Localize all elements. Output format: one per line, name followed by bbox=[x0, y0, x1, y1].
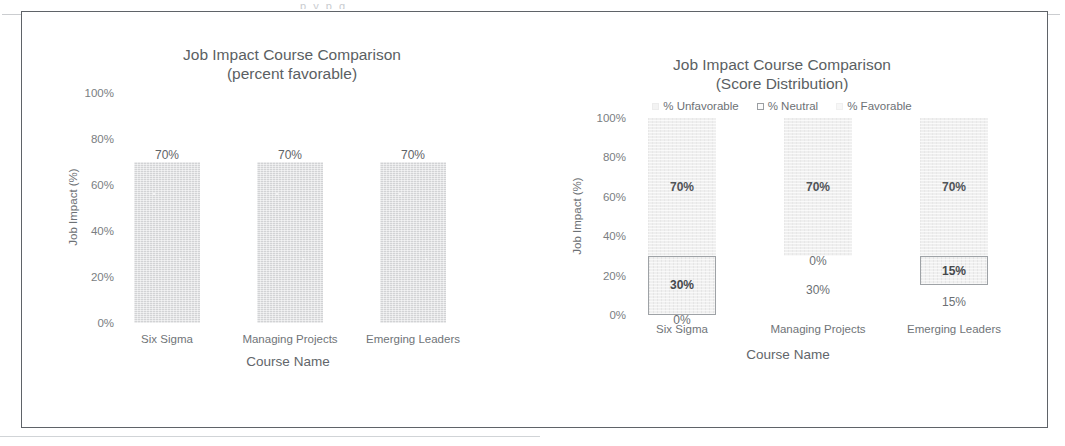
plot-area-score-distribution: Job Impact (%) 100% 80% 60% 40% 20% 0% 7… bbox=[542, 118, 1022, 315]
x-tick-label-emerging-leaders: Emerging Leaders bbox=[366, 333, 460, 345]
bars-container-left: 70% 70% 70% Six Sigma Managing Projects bbox=[124, 93, 516, 323]
legend-item-unfavorable[interactable]: % Unfavorable bbox=[652, 100, 738, 112]
bar-rect[interactable] bbox=[257, 162, 323, 323]
x-axis-title-right: Course Name bbox=[594, 347, 982, 362]
chart-title-line-1: Job Impact Course Comparison bbox=[673, 56, 891, 73]
chart-title-score-distribution: Job Impact Course Comparison (Score Dist… bbox=[542, 55, 1022, 93]
segment-value-label: 30% bbox=[670, 278, 694, 292]
x-tick-label-managing-projects: Managing Projects bbox=[770, 323, 865, 335]
segment-favorable[interactable]: 70% bbox=[920, 118, 988, 256]
bar-value-label: 70% bbox=[380, 148, 446, 162]
segment-unfavorable-label: 30% bbox=[784, 283, 852, 297]
y-axis-ticks-left: 100% 80% 60% 40% 20% 0% bbox=[72, 93, 114, 323]
segment-unfavorable-label: 15% bbox=[920, 295, 988, 309]
segment-value-label: 15% bbox=[942, 264, 966, 278]
slide-frame: Job Impact Course Comparison (percent fa… bbox=[21, 11, 1048, 428]
legend-swatch-icon bbox=[652, 103, 659, 110]
scan-artifact-bottom-rule bbox=[0, 436, 540, 437]
chart-legend-score-distribution: % Unfavorable % Neutral % Favorable bbox=[542, 100, 1022, 112]
y-tick-label: 20% bbox=[72, 271, 114, 283]
x-tick-label-managing-projects: Managing Projects bbox=[242, 333, 337, 345]
segment-value-label: 70% bbox=[670, 180, 694, 194]
legend-item-label: % Unfavorable bbox=[663, 100, 738, 112]
stacked-bar-managing-projects[interactable]: 70% 0% 30% bbox=[784, 118, 852, 315]
legend-swatch-icon bbox=[757, 103, 764, 110]
y-tick-label: 100% bbox=[584, 112, 626, 124]
legend-item-label: % Favorable bbox=[847, 100, 912, 112]
legend-item-label: % Neutral bbox=[768, 100, 819, 112]
y-axis-title-right: Job Impact (%) bbox=[571, 171, 583, 261]
legend-item-favorable[interactable]: % Favorable bbox=[836, 100, 912, 112]
y-tick-label: 0% bbox=[584, 309, 626, 321]
segment-favorable[interactable]: 70% bbox=[784, 118, 852, 256]
bars-container-right: 70% 30% 0% 70% 0% 30% bbox=[634, 118, 1022, 315]
stacked-bar-emerging-leaders[interactable]: 70% 15% 15% bbox=[920, 118, 988, 315]
segment-neutral-label: 0% bbox=[784, 254, 852, 268]
chart-title-line-1: Job Impact Course Comparison bbox=[183, 46, 401, 63]
chart-title-percent-favorable: Job Impact Course Comparison (percent fa… bbox=[62, 45, 522, 83]
x-tick-label-six-sigma: Six Sigma bbox=[656, 323, 708, 335]
y-tick-label: 60% bbox=[72, 179, 114, 191]
stacked-bar-six-sigma[interactable]: 70% 30% 0% bbox=[648, 118, 716, 315]
chart-score-distribution: Job Impact Course Comparison (Score Dist… bbox=[542, 55, 1022, 385]
segment-value-label: 70% bbox=[806, 180, 830, 194]
bar-rect[interactable] bbox=[380, 162, 446, 323]
bar-column-emerging-leaders[interactable]: 70% bbox=[380, 93, 446, 323]
y-tick-label: 40% bbox=[72, 225, 114, 237]
y-tick-label: 80% bbox=[584, 151, 626, 163]
chart-title-line-2: (percent favorable) bbox=[62, 64, 522, 83]
y-tick-label: 60% bbox=[584, 191, 626, 203]
bar-value-label: 70% bbox=[134, 148, 200, 162]
y-tick-label: 20% bbox=[584, 270, 626, 282]
segment-neutral[interactable]: 15% bbox=[920, 256, 988, 286]
segment-neutral[interactable]: 30% bbox=[648, 256, 716, 315]
legend-item-neutral[interactable]: % Neutral bbox=[757, 100, 819, 112]
plot-area-percent-favorable: Job Impact (%) 100% 80% 60% 40% 20% 0% 7… bbox=[62, 93, 522, 323]
bar-column-managing-projects[interactable]: 70% bbox=[257, 93, 323, 323]
scan-artifact-ghost-text: p y p g bbox=[300, 0, 720, 9]
bar-rect[interactable] bbox=[134, 162, 200, 323]
bar-value-label: 70% bbox=[257, 148, 323, 162]
segment-favorable[interactable]: 70% bbox=[648, 118, 716, 256]
bar-column-six-sigma[interactable]: 70% bbox=[134, 93, 200, 323]
legend-swatch-icon bbox=[836, 103, 843, 110]
y-tick-label: 80% bbox=[72, 133, 114, 145]
y-tick-label: 100% bbox=[72, 87, 114, 99]
x-tick-label-emerging-leaders: Emerging Leaders bbox=[907, 323, 1001, 335]
x-tick-label-six-sigma: Six Sigma bbox=[141, 333, 193, 345]
chart-percent-favorable: Job Impact Course Comparison (percent fa… bbox=[62, 45, 522, 375]
chart-title-line-2: (Score Distribution) bbox=[542, 74, 1022, 93]
x-axis-title-left: Course Name bbox=[92, 354, 484, 369]
y-tick-label: 40% bbox=[584, 230, 626, 242]
y-axis-ticks-right: 100% 80% 60% 40% 20% 0% bbox=[584, 118, 626, 315]
segment-value-label: 70% bbox=[942, 180, 966, 194]
y-tick-label: 0% bbox=[72, 317, 114, 329]
